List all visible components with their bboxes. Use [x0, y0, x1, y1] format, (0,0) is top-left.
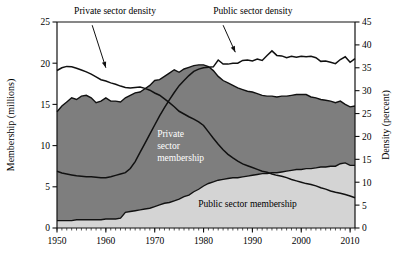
- x-tick-label: 1960: [96, 236, 115, 246]
- private-sector-membership-annotation-line1: Private: [157, 129, 184, 139]
- public-sector-density-annotation: Public sector density: [213, 6, 292, 16]
- y-tick-label: 25: [41, 17, 51, 27]
- y2-tick-label: 15: [362, 155, 372, 165]
- x-tick-label: 1990: [243, 236, 262, 246]
- x-tick-label: 1980: [194, 236, 213, 246]
- y2-tick-label: 10: [362, 178, 372, 188]
- y2-tick-label: 20: [362, 132, 372, 142]
- public-sector-membership-annotation: Public sector membership: [198, 199, 297, 209]
- y2-tick-label: 0: [362, 223, 367, 233]
- y2-axis-title: Density (percent): [380, 90, 392, 160]
- union-membership-density-chart: 1950196019701980199020002010051015202505…: [0, 0, 402, 262]
- private-sector-membership-annotation-line3: membership: [157, 153, 204, 163]
- private-sector-membership-annotation-line2: sector: [157, 141, 181, 151]
- x-tick-label: 1950: [48, 236, 67, 246]
- y2-tick-label: 45: [362, 17, 372, 27]
- y2-tick-label: 30: [362, 86, 372, 96]
- y-tick-label: 15: [41, 100, 51, 110]
- private-sector-density-annotation: Private sector density: [74, 6, 156, 16]
- y-axis-title: Membership (millions): [5, 79, 17, 172]
- y-tick-label: 0: [45, 223, 50, 233]
- y2-tick-label: 35: [362, 63, 372, 73]
- y-tick-label: 5: [45, 182, 50, 192]
- y2-tick-label: 40: [362, 40, 372, 50]
- y-tick-label: 20: [41, 59, 51, 69]
- x-tick-label: 2000: [292, 236, 311, 246]
- y2-tick-label: 25: [362, 109, 372, 119]
- chart-figure: 1950196019701980199020002010051015202505…: [0, 0, 402, 262]
- x-tick-label: 2010: [341, 236, 360, 246]
- y2-tick-label: 5: [362, 201, 367, 211]
- x-tick-label: 1970: [145, 236, 164, 246]
- y-tick-label: 10: [41, 141, 51, 151]
